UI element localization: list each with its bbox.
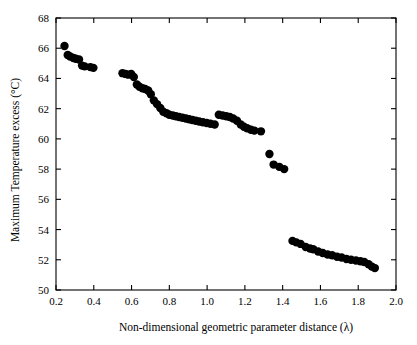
- y-tick-label: 54: [38, 224, 50, 236]
- x-tick-label: 0.6: [125, 295, 139, 307]
- y-tick-label: 68: [38, 12, 50, 24]
- x-tick-label: 1.2: [238, 295, 252, 307]
- y-tick-label: 56: [38, 193, 50, 205]
- y-tick-label: 60: [38, 133, 50, 145]
- y-axis-label: Maximum Temperature excess (°C): [9, 78, 22, 242]
- x-tick-label: 0.2: [49, 295, 63, 307]
- x-tick-label: 0.8: [162, 295, 176, 307]
- y-tick-label: 66: [38, 42, 50, 54]
- x-tick-label: 1.6: [314, 295, 328, 307]
- data-point: [210, 120, 218, 128]
- y-tick-label: 52: [38, 254, 49, 266]
- x-tick-label: 2.0: [389, 295, 403, 307]
- x-tick-label: 1.0: [200, 295, 214, 307]
- data-point: [60, 42, 68, 50]
- x-axis-label: Non-dimensional geometric parameter dist…: [119, 321, 353, 334]
- chart-container: 0.20.40.60.81.01.21.41.61.82.0 505254565…: [0, 0, 417, 345]
- data-point: [257, 127, 265, 135]
- data-point: [89, 64, 97, 72]
- y-tick-label: 64: [38, 72, 50, 84]
- x-tick-label: 0.4: [87, 295, 101, 307]
- y-tick-label: 50: [38, 284, 50, 296]
- scatter-plot: 0.20.40.60.81.01.21.41.61.82.0 505254565…: [0, 0, 417, 345]
- x-tick-label: 1.4: [276, 295, 290, 307]
- data-point: [130, 73, 138, 81]
- data-point: [371, 264, 379, 272]
- y-tick-label: 58: [38, 163, 50, 175]
- x-tick-label: 1.8: [351, 295, 365, 307]
- y-tick-label: 62: [38, 103, 49, 115]
- data-point: [280, 165, 288, 173]
- data-point: [265, 150, 273, 158]
- plot-background: [0, 0, 417, 345]
